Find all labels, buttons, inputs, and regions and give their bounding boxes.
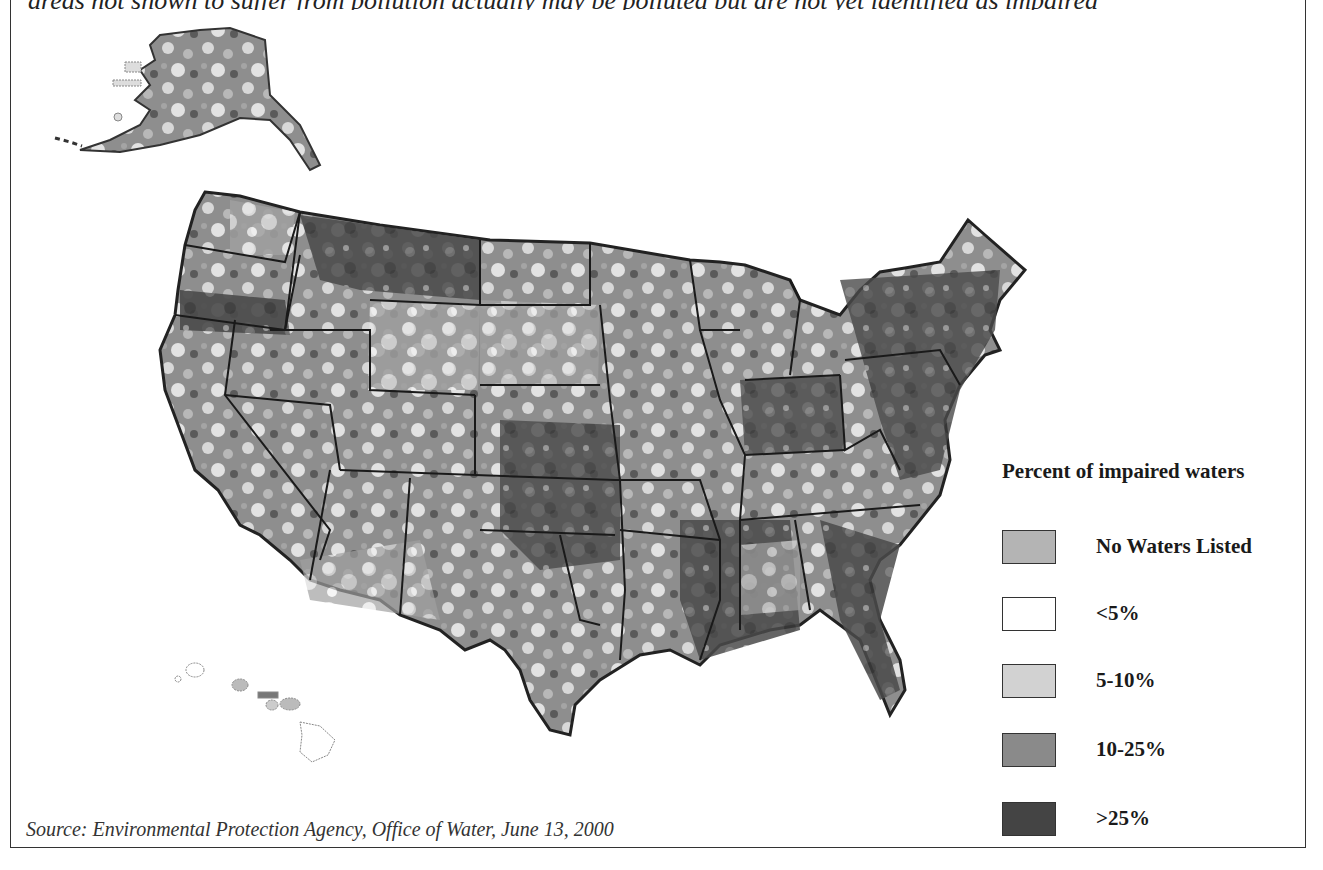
legend-swatch: [1002, 802, 1056, 836]
source-citation: Source: Environmental Protection Agency,…: [26, 818, 614, 841]
legend-swatch: [1002, 664, 1056, 698]
legend-item-less-than-5: <5%: [1002, 597, 1302, 633]
legend-label: <5%: [1096, 601, 1139, 626]
legend-label: 10-25%: [1096, 737, 1166, 762]
alaska: [55, 28, 320, 170]
legend-item-5-10: 5-10%: [1002, 664, 1302, 700]
map-legend: Percent of impaired waters: [1002, 458, 1302, 485]
legend-swatch: [1002, 733, 1056, 767]
legend-item-10-25: 10-25%: [1002, 733, 1302, 769]
legend-label: >25%: [1096, 806, 1150, 831]
legend-label: 5-10%: [1096, 668, 1156, 693]
legend-title: Percent of impaired waters: [1002, 458, 1302, 485]
legend-label: No Waters Listed: [1096, 534, 1252, 559]
legend-item-greater-than-25: >25%: [1002, 802, 1302, 838]
legend-swatch: [1002, 530, 1056, 564]
contiguous-us: [160, 192, 1025, 735]
legend-item-no-waters-listed: No Waters Listed: [1002, 530, 1302, 566]
hawaii: [175, 663, 335, 762]
legend-swatch: [1002, 597, 1056, 631]
